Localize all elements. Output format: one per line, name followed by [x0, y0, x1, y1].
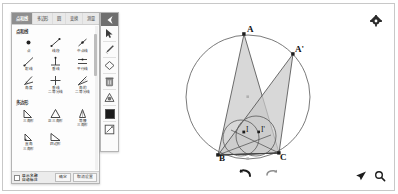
tool-segment-label: 线段	[52, 49, 60, 53]
color-swatch-icon[interactable]	[101, 106, 118, 121]
label-b: B	[219, 153, 225, 163]
redo-arrow-icon[interactable]	[265, 167, 278, 178]
arc-bottom-marker	[246, 157, 249, 160]
auto-label-checkbox[interactable]	[14, 175, 20, 181]
edit-icon[interactable]	[101, 122, 118, 137]
point-icon	[22, 37, 35, 48]
incenter-i[interactable]	[242, 131, 245, 134]
tool-segment[interactable]: 线段	[42, 36, 69, 54]
tool-equilateral-triangle-label: 正三角形	[48, 119, 63, 123]
cancel-button[interactable]: 取消设置	[73, 173, 97, 182]
tab-polygons[interactable]: 多边形	[33, 13, 54, 24]
gear-icon[interactable]	[370, 15, 382, 27]
pointer-send-icon[interactable]	[355, 170, 367, 182]
tool-panel-footer: 显示名称 自动标注 确定 取消设置	[12, 171, 99, 183]
tool-point-label: 点	[27, 49, 31, 53]
tool-grid-polygons: 三角形 正三角形 等腰 三角形	[15, 107, 96, 152]
panel-scrollbar-thumb[interactable]	[94, 34, 97, 76]
label-a-prime: A'	[295, 44, 304, 54]
label-a: A	[247, 24, 254, 34]
application-window: A A' B C I I'	[0, 0, 398, 194]
tool-point[interactable]: 点	[15, 36, 42, 54]
triangle-right-icon	[22, 108, 35, 119]
pen-icon[interactable]	[101, 42, 118, 57]
tool-panel-body: 点和线 点 线段	[12, 25, 99, 171]
tool-right-triangle-label: 直角 三角形	[23, 142, 34, 151]
perp-bisector-icon	[49, 75, 62, 86]
tool-ray[interactable]: 射线	[15, 55, 42, 73]
auto-label-text: 显示名称 自动标注	[22, 174, 38, 182]
history-controls	[239, 167, 278, 178]
section-title-points-lines: 点和线	[16, 28, 96, 35]
triangle-iso-icon	[76, 108, 89, 119]
tool-perpendicular-bisector-label: 垂线 二等分线	[48, 86, 63, 95]
canvas-bottom-tools	[355, 170, 386, 182]
tool-triangle[interactable]: 三角形	[15, 107, 42, 129]
midpoint-icon	[76, 37, 89, 48]
tab-transform[interactable]: 变换	[66, 13, 83, 24]
tab-circles[interactable]: 圆	[53, 13, 66, 24]
tool-perpendicular-label: 垂线	[52, 67, 60, 71]
tool-midpoint-line-label: 中点线	[77, 49, 88, 53]
tool-quadrilateral-label: 四边形	[50, 142, 61, 146]
triangle-rt-icon	[22, 131, 35, 142]
angle-bisector-icon	[76, 75, 89, 86]
tool-midpoint-line[interactable]: 中点线	[69, 36, 96, 54]
magnifier-icon[interactable]	[374, 170, 386, 182]
tool-equilateral-triangle[interactable]: 正三角形	[42, 107, 69, 129]
ray-icon	[22, 56, 35, 67]
vertical-toolbar	[100, 12, 119, 152]
parallel-icon	[76, 56, 89, 67]
tab-points-lines[interactable]: 点和线	[12, 13, 33, 24]
tool-angle[interactable]: 角度	[15, 74, 42, 96]
section-title-polygons: 多边形	[16, 99, 96, 106]
angle-icon	[22, 75, 35, 86]
tool-isosceles-triangle[interactable]: 等腰 三角形	[69, 107, 96, 129]
triangle-equi-icon	[49, 108, 62, 119]
tool-parallel[interactable]: 平行线	[69, 55, 96, 73]
vertex-a[interactable]	[242, 32, 245, 35]
tool-parallel-label: 平行线	[77, 67, 88, 71]
tool-ray-label: 射线	[25, 67, 33, 71]
tool-triangle-label: 三角形	[23, 119, 34, 123]
tool-quadrilateral[interactable]: 四边形	[42, 130, 69, 152]
cursor-icon[interactable]	[101, 26, 118, 41]
tool-angle-bisector-label: 角的 二等分线	[75, 86, 90, 95]
tool-perpendicular[interactable]: 垂线	[42, 55, 69, 73]
tool-perpendicular-bisector[interactable]: 垂线 二等分线	[42, 74, 69, 96]
segment-icon	[49, 37, 62, 48]
panel-scrollbar-track[interactable]	[95, 26, 98, 170]
tool-panel: 点和线 多边形 圆 变换 测量 点和线 点 线段	[11, 12, 100, 184]
undo-arrow-icon[interactable]	[239, 167, 252, 178]
perpendicular-icon	[49, 56, 62, 67]
label-i-prime: I'	[261, 125, 265, 134]
incenter-i-prime[interactable]	[257, 131, 260, 134]
circumcenter-marker	[246, 95, 249, 98]
eraser-icon[interactable]	[101, 58, 118, 73]
tool-right-triangle[interactable]: 直角 三角形	[15, 130, 42, 152]
label-c: C	[280, 152, 287, 162]
tab-measure[interactable]: 测量	[83, 13, 99, 24]
tool-grid-points-lines: 点 线段 中点线	[15, 36, 96, 96]
confirm-button[interactable]: 确定	[55, 173, 71, 182]
shape-icon[interactable]	[101, 90, 118, 105]
quad-icon	[49, 131, 62, 142]
tool-isosceles-triangle-label: 等腰 三角形	[77, 119, 88, 128]
current-color-swatch	[105, 109, 115, 119]
tool-angle-label: 角度	[25, 86, 33, 90]
tool-panel-tabs: 点和线 多边形 圆 变换 测量	[12, 13, 99, 25]
menu-collapse-icon[interactable]	[101, 13, 118, 26]
tool-angle-bisector[interactable]: 角的 二等分线	[69, 74, 96, 96]
trash-icon[interactable]	[101, 74, 118, 89]
